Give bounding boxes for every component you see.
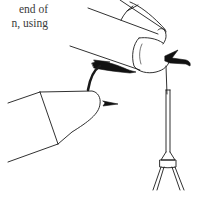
fly-tying-illustration (0, 0, 198, 197)
book-page: end of n, using (0, 0, 198, 197)
bobbin-legs (153, 167, 184, 190)
hook-point (103, 101, 118, 106)
upper-fingers (88, 0, 166, 44)
fly-wing (92, 50, 190, 73)
left-hand-fingertip (8, 91, 100, 162)
bobbin-collar (160, 152, 176, 168)
bobbin-tube (166, 90, 170, 152)
hook-bend (88, 66, 100, 90)
